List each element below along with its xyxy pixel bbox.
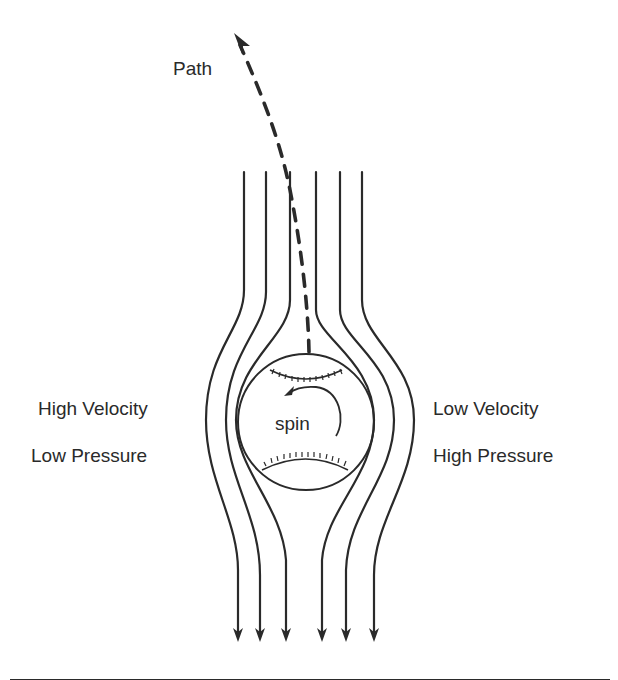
streamlines: [206, 172, 414, 632]
left-pressure-label: Low Pressure: [31, 445, 147, 467]
ball-path-dashed: [240, 45, 309, 352]
flow-arrowheads: [233, 628, 379, 642]
spin-arrowhead-icon: [284, 386, 294, 396]
right-velocity-label: Low Velocity: [433, 398, 539, 420]
path-label: Path: [173, 58, 212, 80]
magnus-effect-diagram: [0, 0, 618, 680]
baseball-seam-top: [270, 370, 342, 379]
streamline-right-inner: [316, 172, 374, 632]
streamline-right-middle: [340, 172, 394, 632]
baseball-seam-bottom: [262, 459, 348, 470]
spin-label: spin: [275, 413, 310, 435]
path-arrowhead-icon: [234, 33, 250, 54]
streamline-right-outer: [362, 172, 414, 632]
streamline-left-middle: [226, 172, 266, 632]
left-velocity-label: High Velocity: [38, 398, 148, 420]
right-pressure-label: High Pressure: [433, 445, 553, 467]
